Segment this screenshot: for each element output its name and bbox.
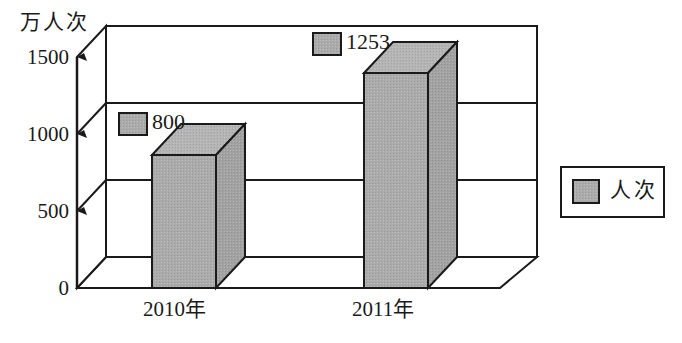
- chart-canvas: [0, 0, 682, 343]
- plot-floor: [77, 257, 537, 288]
- bar-2010: [152, 124, 245, 288]
- bar-chart-figure: 万人次 1500 1000 500 0 2010年 2011年 800 1253…: [0, 0, 682, 343]
- y-tick-label-0: 0: [14, 278, 69, 299]
- plot-left-wall: [77, 26, 106, 288]
- data-label-swatch-2010: [119, 113, 147, 135]
- bar-2011: [364, 42, 457, 288]
- x-tick-label-2010: 2010年: [143, 299, 206, 320]
- y-tick-label-1000: 1000: [14, 124, 69, 145]
- y-tick-label-1500: 1500: [14, 47, 69, 68]
- x-tick-label-2011: 2011年: [352, 299, 414, 320]
- data-label-swatch-2011: [313, 33, 341, 55]
- data-label-2010: 800: [152, 111, 185, 133]
- data-label-2011: 1253: [346, 31, 390, 53]
- legend-entry-label: 人次: [610, 180, 658, 201]
- y-axis-unit-label: 万人次: [20, 12, 89, 33]
- y-tick-label-500: 500: [14, 201, 69, 222]
